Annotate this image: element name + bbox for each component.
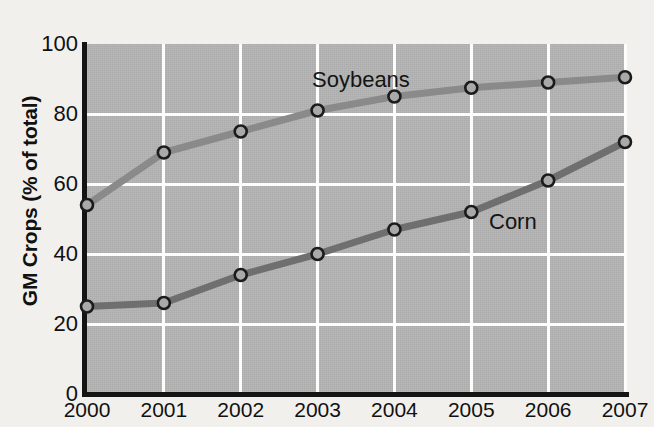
data-point-marker	[158, 147, 170, 159]
data-point-marker	[388, 91, 400, 103]
data-point-marker	[158, 297, 170, 309]
series-line	[87, 142, 625, 307]
data-point-marker	[388, 224, 400, 236]
data-point-marker	[235, 269, 247, 281]
series-label-corn: Corn	[489, 211, 537, 233]
data-point-marker	[619, 136, 631, 148]
data-point-marker	[542, 175, 554, 187]
series-corn	[81, 136, 631, 313]
data-point-marker	[542, 77, 554, 89]
chart-figure: GM Crops (% of total) 020406080100 20002…	[0, 0, 654, 427]
data-series-layer	[0, 0, 654, 427]
series-label-soybeans: Soybeans	[312, 69, 410, 91]
data-point-marker	[619, 71, 631, 83]
data-point-marker	[81, 199, 93, 211]
data-point-marker	[312, 105, 324, 117]
data-point-marker	[312, 248, 324, 260]
series-soybeans	[81, 71, 631, 211]
data-point-marker	[81, 301, 93, 313]
data-point-marker	[465, 206, 477, 218]
data-point-marker	[235, 126, 247, 138]
data-point-marker	[465, 82, 477, 94]
